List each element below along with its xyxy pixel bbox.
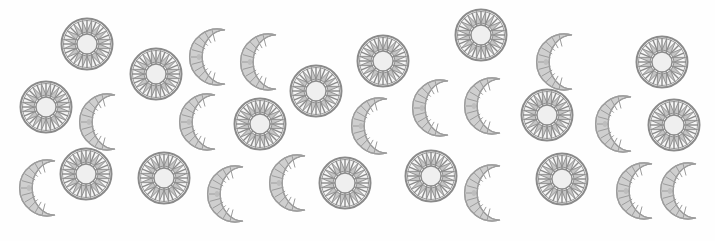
sun-ornament-icon xyxy=(535,152,589,206)
sun-ornament-icon xyxy=(60,17,114,71)
sun-ornament-icon xyxy=(635,35,689,89)
sun-ornament-icon xyxy=(129,47,183,101)
crescent-moon-ornament-icon xyxy=(351,96,393,156)
sun-ornament-icon xyxy=(404,149,458,203)
sun-ornament-icon xyxy=(520,88,574,142)
sun-ornament-icon xyxy=(289,64,343,118)
sun-ornament-icon xyxy=(59,147,113,201)
crescent-moon-ornament-icon xyxy=(536,32,578,92)
crescent-moon-ornament-icon xyxy=(269,153,311,213)
crescent-moon-ornament-icon xyxy=(19,158,61,218)
crescent-moon-ornament-icon xyxy=(207,164,249,224)
sun-ornament-icon xyxy=(137,151,191,205)
crescent-moon-ornament-icon xyxy=(412,78,454,138)
crescent-moon-ornament-icon xyxy=(616,161,658,221)
crescent-moon-ornament-icon xyxy=(464,76,506,136)
crescent-moon-ornament-icon xyxy=(79,92,121,152)
crescent-moon-ornament-icon xyxy=(179,92,221,152)
crescent-moon-ornament-icon xyxy=(660,161,702,221)
ornament-canvas xyxy=(0,0,715,241)
sun-ornament-icon xyxy=(318,156,372,210)
crescent-moon-ornament-icon xyxy=(464,163,506,223)
sun-ornament-icon xyxy=(19,80,73,134)
sun-ornament-icon xyxy=(454,8,508,62)
crescent-moon-ornament-icon xyxy=(240,32,282,92)
sun-ornament-icon xyxy=(356,34,410,88)
sun-ornament-icon xyxy=(233,97,287,151)
crescent-moon-ornament-icon xyxy=(595,94,637,154)
sun-ornament-icon xyxy=(647,98,701,152)
crescent-moon-ornament-icon xyxy=(189,27,231,87)
